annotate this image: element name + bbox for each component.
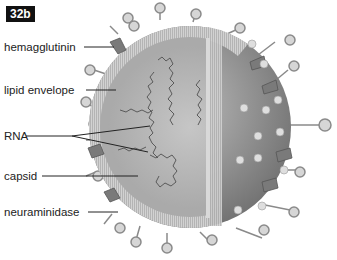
influenza-virus-illustration (0, 0, 337, 260)
